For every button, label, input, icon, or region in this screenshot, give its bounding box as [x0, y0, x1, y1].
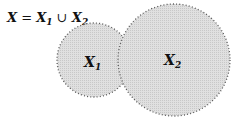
- formula: X = X1 ∪ X2: [6, 10, 88, 27]
- union-diagram: X = X1 ∪ X2 X1 X2: [0, 0, 242, 119]
